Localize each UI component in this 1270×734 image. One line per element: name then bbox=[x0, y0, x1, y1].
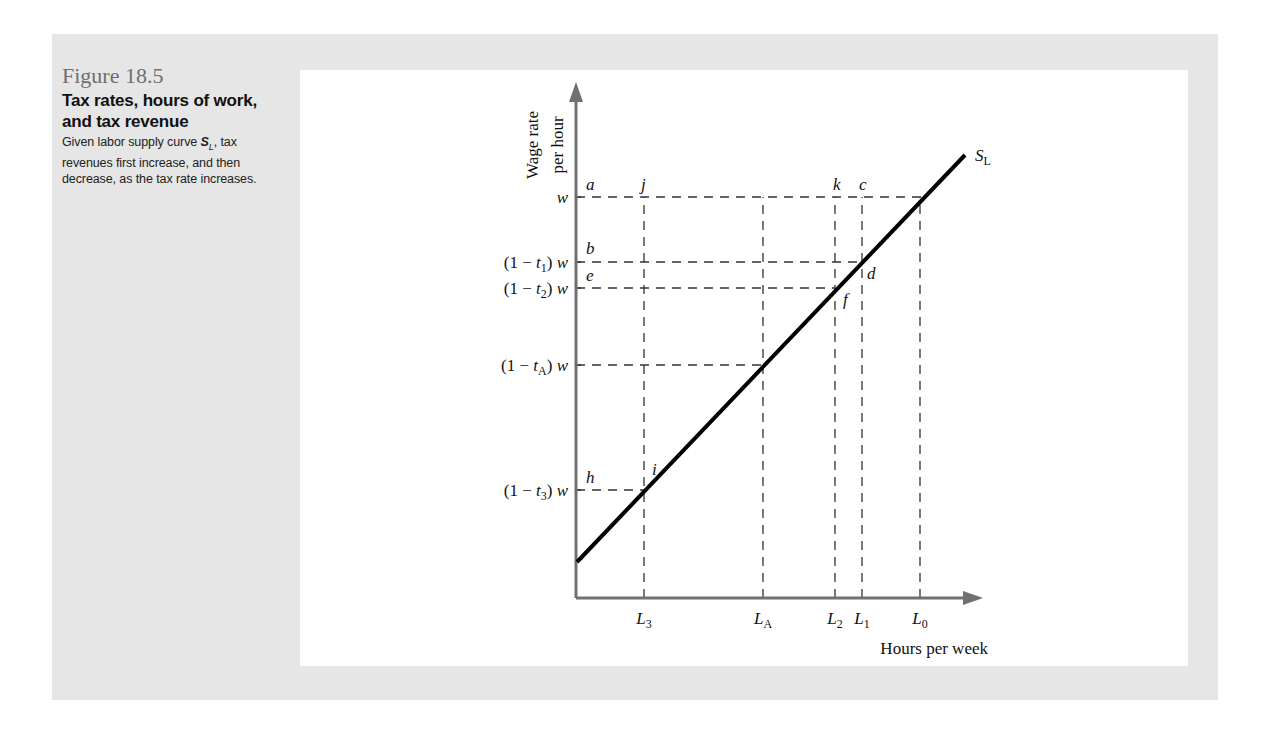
point-label-j: j bbox=[639, 175, 646, 194]
x-label-LA: LA bbox=[753, 609, 772, 631]
point-label-a: a bbox=[586, 175, 595, 194]
x-label-L1: L1 bbox=[853, 609, 869, 631]
x-axis-arrow-icon bbox=[963, 591, 983, 605]
y-label-w: w bbox=[557, 188, 569, 207]
point-label-c: c bbox=[859, 175, 867, 194]
y-label-t3: (1 − t3) w bbox=[504, 481, 569, 503]
point-label-f: f bbox=[843, 290, 850, 309]
point-label-h: h bbox=[586, 468, 595, 487]
y-axis-title: Wage rate bbox=[523, 111, 542, 179]
point-label-e: e bbox=[586, 266, 594, 285]
point-label-k: k bbox=[833, 175, 841, 194]
x-label-L3: L3 bbox=[635, 609, 651, 631]
x-axis-title: Hours per week bbox=[880, 639, 988, 658]
labor-supply-chart: w(1 − t1) w(1 − t2) w(1 − tA) w(1 − t3) … bbox=[0, 0, 1270, 734]
y-axis-arrow-icon bbox=[569, 82, 583, 102]
curve-label-SL: SL bbox=[975, 146, 991, 168]
x-label-L2: L2 bbox=[826, 609, 842, 631]
x-label-L0: L0 bbox=[911, 609, 927, 631]
point-label-d: d bbox=[867, 264, 876, 283]
y-axis-title-2: per hour bbox=[548, 116, 567, 173]
y-label-t1: (1 − t1) w bbox=[504, 253, 569, 275]
y-label-tA: (1 − tA) w bbox=[501, 356, 569, 378]
y-label-t2: (1 − t2) w bbox=[504, 279, 569, 301]
labor-supply-curve bbox=[577, 155, 965, 562]
point-label-i: i bbox=[652, 460, 657, 479]
point-label-b: b bbox=[586, 239, 595, 258]
